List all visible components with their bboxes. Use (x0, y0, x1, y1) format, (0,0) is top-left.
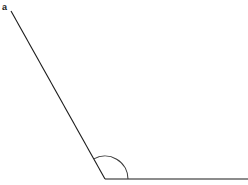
label-a: a (2, 3, 7, 12)
ray-upper-left (11, 11, 105, 179)
diagram-canvas: a (0, 0, 248, 185)
angle-figure (0, 0, 248, 185)
